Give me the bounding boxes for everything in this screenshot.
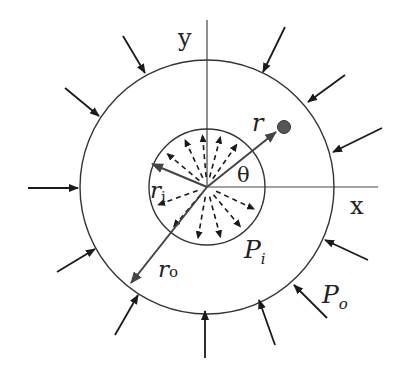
outer-pressure-arrow-icon bbox=[263, 27, 285, 72]
outer-pressure-arrow-icon bbox=[123, 36, 145, 73]
x-axis-label: x bbox=[350, 192, 364, 220]
inner-radius-label: ri bbox=[150, 177, 166, 206]
outer-pressure-arrow-icon bbox=[57, 249, 95, 272]
inner-pressure-arrow-icon bbox=[202, 135, 206, 177]
theta-label: θ bbox=[237, 163, 250, 187]
inner-pressure-arrow-icon bbox=[198, 197, 205, 238]
y-axis-label: y bbox=[177, 24, 192, 52]
outer-pressure-arrow-icon bbox=[325, 240, 368, 260]
outer-radius-label: ro bbox=[158, 256, 178, 282]
inner-pressure-arrow-icon bbox=[210, 197, 221, 238]
cylinder-diagram: y x θ r ri ro Pi Po bbox=[0, 0, 403, 371]
inner-pressure-arrow-icon bbox=[216, 191, 254, 209]
inner-pressure-label: Pi bbox=[243, 235, 266, 268]
outer-pressure-arrow-icon bbox=[65, 88, 99, 116]
inner-pressure-arrow-icon bbox=[185, 140, 203, 178]
outer-pressure-label: Po bbox=[321, 280, 348, 313]
inner-pressure-arrow-icon bbox=[213, 195, 240, 227]
outer-pressure-arrow-icon bbox=[115, 295, 138, 335]
outer-pressure-arrow-icon bbox=[308, 75, 345, 102]
outer-pressure-arrow-icon bbox=[259, 300, 275, 345]
outer-pressure-arrow-icon bbox=[333, 128, 382, 152]
point-marker bbox=[278, 121, 291, 134]
radius-r-label: r bbox=[252, 109, 265, 137]
